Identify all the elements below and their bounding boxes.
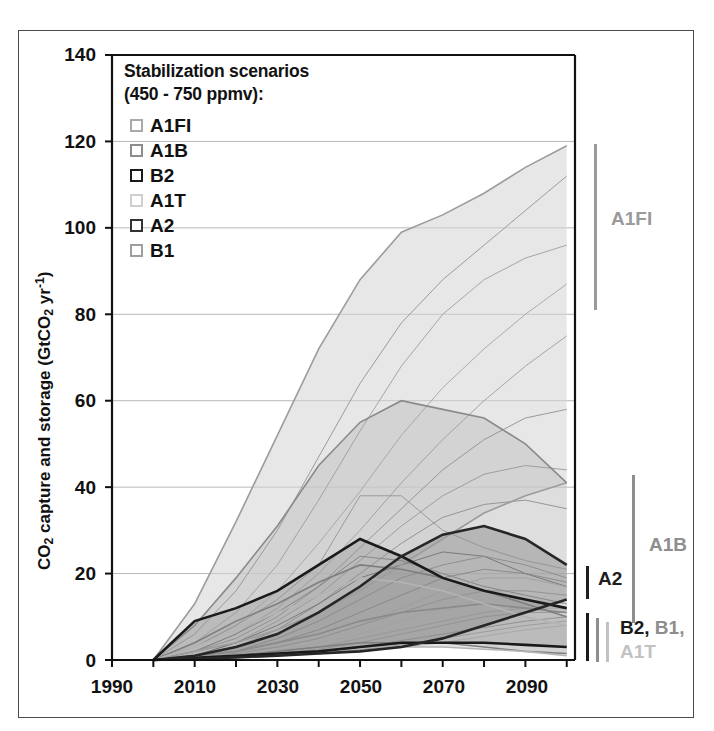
y-axis-title-text: CO2 capture and storage (GtCO2 yr-1) <box>35 272 54 570</box>
legend-swatch-a1t <box>130 194 143 207</box>
chart-legend: Stabilization scenarios (450 - 750 ppmv)… <box>124 60 354 263</box>
xtick-label-2090: 2090 <box>487 676 567 698</box>
range-bar-b2 <box>586 613 589 661</box>
legend-item-a1t[interactable]: A1T <box>130 188 354 213</box>
legend-swatch-a2 <box>130 219 143 232</box>
ytick-label-140: 140 <box>36 44 96 66</box>
legend-item-a1fi[interactable]: A1FI <box>130 113 354 138</box>
xtick-label-2050: 2050 <box>321 676 401 698</box>
legend-label-a2: A2 <box>150 216 174 235</box>
legend-label-a1fi: A1FI <box>150 116 191 135</box>
ytick-label-120: 120 <box>36 131 96 153</box>
xtick-label-2030: 2030 <box>238 676 318 698</box>
range-label-a2: A2 <box>598 568 622 590</box>
xtick-label-1990: 1990 <box>72 676 152 698</box>
range-bar-a2 <box>586 566 589 599</box>
legend-label-a1t: A1T <box>150 191 186 210</box>
range-label-b1-text: B1, <box>655 617 685 638</box>
ytick-label-0: 0 <box>36 650 96 672</box>
legend-label-b2: B2 <box>150 166 174 185</box>
range-bar-a1b <box>632 475 635 623</box>
legend-item-b1[interactable]: B1 <box>130 238 354 263</box>
legend-item-a1b[interactable]: A1B <box>130 138 354 163</box>
range-bar-b1 <box>596 618 599 662</box>
range-label-a1fi: A1FI <box>611 208 652 230</box>
range-label-a1t: A1T <box>620 641 656 663</box>
legend-item-a2[interactable]: A2 <box>130 213 354 238</box>
legend-swatch-a1b <box>130 144 143 157</box>
figure-root: 0 20 40 60 80 100 120 140 1990 2010 2030… <box>0 0 714 731</box>
range-label-a1b: A1B <box>649 534 687 556</box>
legend-swatch-b1 <box>130 244 143 257</box>
legend-title-line2: (450 - 750 ppmv): <box>124 83 354 106</box>
range-label-b2: B2, B1, <box>620 617 684 639</box>
legend-swatch-b2 <box>130 169 143 182</box>
legend-label-a1b: A1B <box>150 141 188 160</box>
xtick-label-2010: 2010 <box>155 676 235 698</box>
legend-item-b2[interactable]: B2 <box>130 163 354 188</box>
xtick-label-2070: 2070 <box>404 676 484 698</box>
range-bar-a1fi <box>594 144 597 310</box>
range-bar-a1t <box>606 622 609 662</box>
legend-title-line1: Stabilization scenarios <box>124 60 354 83</box>
legend-swatch-a1fi <box>130 119 143 132</box>
legend-label-b1: B1 <box>150 241 174 260</box>
range-label-b2-text: B2, <box>620 617 650 638</box>
y-axis-title: CO2 capture and storage (GtCO2 yr-1) <box>33 272 56 570</box>
ytick-label-100: 100 <box>36 217 96 239</box>
